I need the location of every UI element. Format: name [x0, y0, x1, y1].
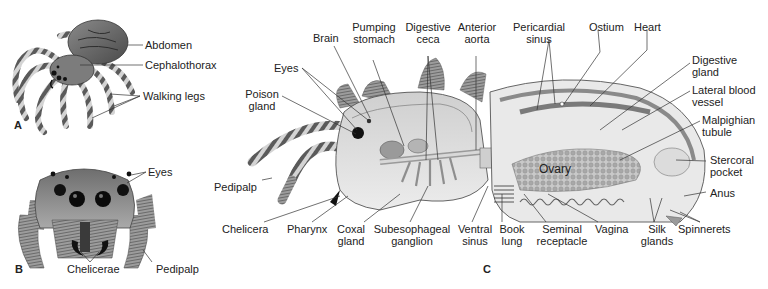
label-pumping-stomach: Pumping stomach	[351, 21, 397, 45]
label-ovary: Ovary	[539, 163, 571, 175]
label-pedipalp-b: Pedipalp	[156, 263, 199, 275]
label-vagina: Vagina	[595, 223, 628, 235]
label-ventral-sinus: Ventral sinus	[456, 223, 494, 247]
label-brain: Brain	[313, 32, 339, 44]
label-stercoral-pocket: Stercoral pocket	[710, 154, 754, 178]
spider-anatomy-figure: Abdomen Cephalothorax Walking legs A Eye…	[0, 0, 768, 289]
label-eyes-b: Eyes	[148, 166, 172, 178]
label-walking-legs: Walking legs	[143, 90, 205, 102]
label-heart: Heart	[634, 21, 661, 33]
label-anterior-aorta: Anterior aorta	[456, 21, 498, 45]
label-malpighian-tubule: Malpighian tubule	[702, 114, 755, 138]
label-lateral-blood-vessel: Lateral blood vessel	[692, 84, 756, 108]
label-abdomen: Abdomen	[145, 39, 192, 51]
label-book-lung: Book lung	[498, 223, 526, 247]
cephalothorax-shape	[50, 55, 94, 85]
label-subesophageal-ganglion: Subesophageal ganglion	[372, 223, 452, 247]
panel-b-head-drawing	[18, 169, 156, 268]
label-anus: Anus	[710, 187, 735, 199]
panel-letter-a: A	[14, 119, 22, 131]
label-eyes-c: Eyes	[274, 62, 298, 74]
panel-c-section-drawing	[252, 30, 706, 226]
panel-a-spider-drawing	[15, 20, 143, 132]
label-chelicera: Chelicera	[222, 223, 268, 235]
label-poison-gland: Poison gland	[244, 88, 280, 112]
label-pedipalp-c: Pedipalp	[214, 181, 257, 193]
label-chelicerae: Chelicerae	[67, 263, 120, 275]
label-cephalothorax: Cephalothorax	[145, 59, 217, 71]
label-digestive-ceca: Digestive ceca	[403, 21, 453, 45]
label-seminal-receptacle: Seminal receptacle	[534, 223, 590, 247]
label-pharynx: Pharynx	[287, 223, 327, 235]
panel-letter-b: B	[15, 263, 23, 275]
label-spinnerets: Spinnerets	[678, 223, 731, 235]
panel-letter-c: C	[483, 263, 491, 275]
label-silk-glands: Silk glands	[640, 223, 674, 247]
label-pericardial-sinus: Pericardial sinus	[510, 21, 568, 45]
label-coxal-gland: Coxal gland	[335, 223, 367, 247]
label-digestive-gland: Digestive gland	[692, 54, 737, 78]
label-ostium: Ostium	[589, 21, 624, 33]
